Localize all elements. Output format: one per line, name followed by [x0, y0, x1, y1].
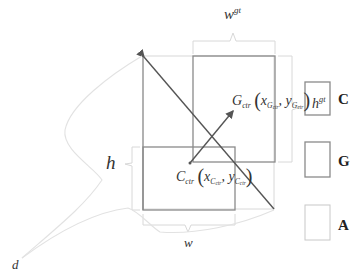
h-gt-sup: gt: [319, 95, 326, 104]
g-ctr-comma: ,: [279, 93, 283, 108]
h-gt-base: h: [312, 96, 319, 111]
g-ctr-sub: ctr: [242, 101, 251, 110]
c-ctr-comma: ,: [221, 169, 225, 184]
c-ctr-sub: ctr: [185, 177, 194, 186]
c-ctr-base: C: [176, 169, 185, 184]
c-center-point: [189, 162, 192, 165]
h-label: h: [106, 153, 116, 172]
diagonal-line: [144, 57, 274, 209]
diagram-graphics: [0, 0, 358, 279]
h-gt-label: hgt: [312, 96, 326, 111]
c-center-label: Cctr (xCctr, yCctr): [176, 166, 252, 186]
g-ctr-base: G: [232, 93, 242, 108]
c-ctr-close-paren: ): [246, 165, 253, 187]
h-text: h: [106, 152, 116, 173]
w-gt-label: wgt: [224, 6, 241, 22]
d-text: d: [12, 257, 19, 272]
legend-label-g: G: [338, 154, 350, 169]
w-gt-brace: [193, 33, 275, 54]
legend-box-g: [305, 142, 330, 177]
diagram-canvas: wgt Gctr (xGctr, yGctr) hgt h Cctr (xCct…: [0, 0, 358, 279]
w-label: w: [184, 236, 193, 249]
g-ctr-close-paren: ): [303, 89, 310, 111]
d-brace-upper-curve: [22, 56, 142, 258]
legend-label-a: A: [338, 218, 349, 233]
g-center-label: Gctr (xGctr, yGctr): [232, 90, 310, 110]
w-gt-sup: gt: [234, 5, 241, 15]
w-text: w: [184, 235, 193, 250]
h-brace: [125, 147, 140, 210]
w-gt-base: w: [224, 6, 234, 22]
legend-box-a: [305, 205, 330, 240]
d-brace-lower-curve: [22, 208, 274, 258]
d-label: d: [12, 258, 19, 271]
legend-label-c: C: [338, 92, 349, 107]
g-ctr-open-paren: (: [254, 89, 261, 111]
